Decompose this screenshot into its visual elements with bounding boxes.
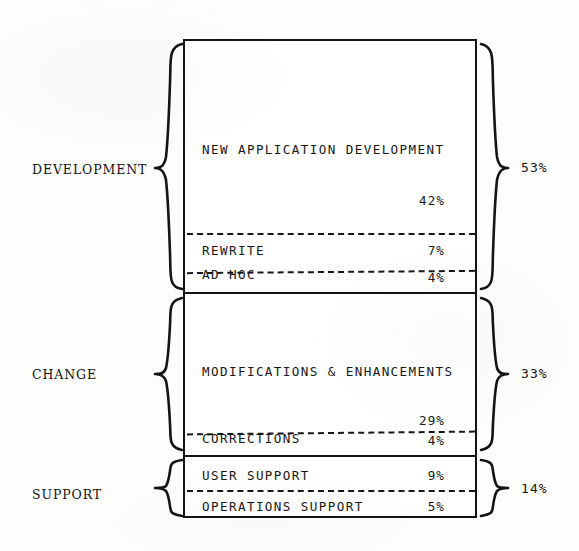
divider-operations-support — [187, 490, 475, 492]
left-brace-support — [152, 457, 186, 519]
group-total-support: 14% — [521, 481, 548, 496]
group-label-support: SUPPORT — [32, 487, 102, 502]
segment-value-rewrite: 7% — [375, 243, 445, 258]
left-brace-change — [152, 295, 186, 453]
diagram-page: DEVELOPMENT CHANGE SUPPORT 53% 33% — [0, 0, 579, 551]
segment-value-user-support: 9% — [375, 468, 445, 483]
group-total-development: 53% — [521, 160, 548, 175]
group-label-development: DEVELOPMENT — [32, 162, 147, 177]
segment-value-ad-hoc: 4% — [375, 270, 445, 285]
right-brace-development — [477, 41, 511, 291]
right-brace-support — [477, 457, 511, 519]
segment-value-new-application-development: 42% — [375, 193, 445, 208]
group-divider-change-support — [183, 455, 477, 457]
group-total-change: 33% — [521, 366, 548, 381]
segment-label-operations-support: OPERATIONS SUPPORT — [202, 499, 364, 514]
divider-rewrite — [187, 233, 475, 235]
segment-label-modifications-enhancements: MODIFICATIONS & ENHANCEMENTS — [202, 364, 454, 379]
right-brace-change — [477, 295, 511, 453]
left-brace-development — [152, 41, 186, 291]
segment-value-operations-support: 5% — [375, 499, 445, 514]
segment-label-new-application-development: NEW APPLICATION DEVELOPMENT — [202, 142, 445, 157]
group-label-change: CHANGE — [32, 367, 97, 382]
workload-chart-body: NEW APPLICATION DEVELOPMENT 42% REWRITE … — [183, 39, 477, 518]
segment-label-ad-hoc: AD HOC — [202, 267, 256, 282]
segment-label-rewrite: REWRITE — [202, 243, 265, 258]
segment-label-user-support: USER SUPPORT — [202, 468, 310, 483]
segment-value-corrections: 4% — [375, 433, 445, 448]
segment-value-modifications-enhancements: 29% — [375, 413, 445, 428]
group-divider-development-change — [183, 292, 477, 294]
segment-label-corrections: CORRECTIONS — [202, 431, 301, 446]
